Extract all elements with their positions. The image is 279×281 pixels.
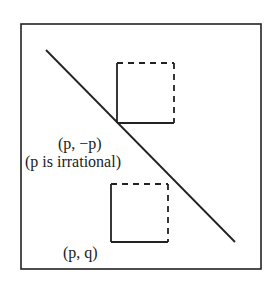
label-irrational-note: (p is irrational)	[25, 153, 121, 171]
lower-square	[111, 184, 168, 242]
label-point-on-line: (p, −p)	[58, 135, 102, 153]
diagram-canvas: (p, −p) (p is irrational) (p, q)	[0, 0, 279, 281]
label-point-pq: (p, q)	[63, 244, 98, 262]
upper-square	[117, 63, 174, 123]
